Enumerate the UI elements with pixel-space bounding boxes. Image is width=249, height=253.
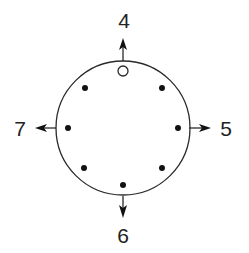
point-top-left [82,85,88,91]
diagram-canvas: 4 5 6 7 [0,0,249,253]
point-bottom-left [81,165,87,171]
point-right [175,125,181,131]
label-bottom: 6 [117,224,129,247]
label-top: 4 [118,9,130,32]
open-point-top [118,66,128,76]
arrow-down [119,196,127,218]
point-bottom-right [159,165,165,171]
point-top-right [159,85,165,91]
main-circle [56,61,190,195]
arrow-left [35,124,56,132]
arrow-up [119,38,127,61]
point-bottom [120,182,126,188]
arrow-right [189,124,211,132]
point-left [65,125,71,131]
label-left: 7 [14,117,26,140]
label-right: 5 [220,117,232,140]
